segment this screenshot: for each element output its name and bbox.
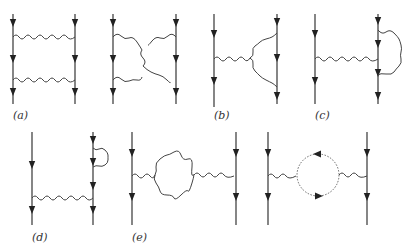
photon-line [113,34,170,82]
arrow-icon [29,161,35,169]
photon-line [32,196,93,200]
photon-line [250,33,277,58]
diagram-e2 [265,132,370,225]
diagram-a-crossed [110,14,179,104]
arrow-icon [72,55,78,63]
photon-line [113,77,142,82]
photon-loop [154,151,194,199]
arrow-icon [375,40,381,48]
diagram-b: (b) [211,14,280,122]
arrow-icon [375,69,381,77]
photon-line [132,174,155,178]
diagram-d: (d) [29,132,108,244]
arrow-icon [375,17,381,25]
arrow-icon [90,182,96,190]
arrow-icon [72,19,78,27]
arrow-icon [10,55,16,63]
photon-line [268,174,296,178]
arrow-icon [274,54,280,62]
label-e: (e) [132,231,147,244]
arrow-icon [211,30,217,38]
photon-line [339,173,367,177]
arrow-icon [90,136,96,144]
arrow-icon [90,158,96,166]
feynman-diagrams-figure: (a) (b) [0,0,411,250]
arrow-icon [129,149,135,157]
photon-line [194,173,234,177]
diagram-e: (e) [129,132,239,244]
photon-line [13,35,75,39]
fermion-loop [297,154,339,196]
arrow-icon [10,19,16,27]
label-b: (b) [214,109,230,122]
arrow-icon [129,193,135,201]
label-c: (c) [315,109,330,122]
arrow-icon [265,149,271,157]
arrow-icon [364,149,370,157]
arrow-icon [173,55,179,63]
photon-loop [93,148,108,167]
arrow-icon [312,77,318,85]
diagram-a: (a) [10,14,78,122]
arrow-icon [10,88,16,96]
arrow-left-icon [313,151,321,158]
label-a: (a) [13,109,28,122]
diagram-c: (c) [312,14,402,122]
arrow-icon [72,88,78,96]
arrow-icon [274,18,280,26]
arrow-icon [173,88,179,96]
arrow-icon [173,19,179,27]
label-d: (d) [32,231,48,244]
arrow-icon [274,92,280,100]
arrow-icon [211,77,217,85]
arrow-icon [110,19,116,27]
arrow-icon [265,193,271,201]
photon-line [214,57,250,61]
arrow-icon [233,149,239,157]
arrow-icon [110,88,116,96]
arrow-icon [110,55,116,63]
arrow-right-icon [315,193,323,200]
photon-line [148,34,176,45]
arrow-icon [364,193,370,201]
arrow-icon [29,206,35,214]
arrow-icon [233,193,239,201]
photon-loop [378,30,402,75]
photon-line [13,78,75,82]
arrow-icon [312,30,318,38]
photon-line [315,57,378,61]
arrow-icon [375,92,381,100]
photon-line [250,58,277,87]
arrow-icon [90,206,96,214]
